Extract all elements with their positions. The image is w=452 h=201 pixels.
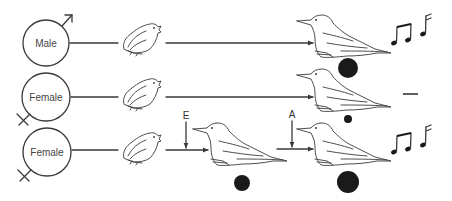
male-circle: Male	[23, 20, 69, 66]
androgen-label: A	[289, 109, 296, 120]
adult-bird-icon	[297, 15, 391, 57]
juvenile-bird-icon	[123, 79, 161, 111]
row-female-untreated: Female	[17, 69, 418, 125]
music-notes-icon	[390, 14, 431, 46]
estrogen-treatment: E	[183, 110, 190, 148]
intermediate-bird-icon	[193, 123, 287, 165]
female-circle: Female	[22, 73, 70, 121]
female-label: Female	[29, 92, 63, 103]
song-nucleus-large-dot	[337, 171, 359, 193]
male-label: Male	[35, 38, 57, 49]
juvenile-bird-icon	[123, 133, 161, 165]
song-nucleus-large-dot	[338, 58, 358, 78]
adult-bird-icon	[297, 123, 391, 165]
female-label: Female	[30, 147, 64, 158]
song-learning-diagram: Male Female	[0, 0, 452, 201]
row-female-treated: Female E A	[18, 109, 431, 193]
song-nucleus-small-dot	[344, 115, 352, 123]
female-symbol-icon	[17, 114, 30, 125]
estrogen-label: E	[183, 110, 190, 121]
row-male: Male	[23, 14, 431, 78]
music-notes-icon	[390, 125, 431, 155]
female-symbol-icon	[18, 170, 31, 181]
androgen-treatment: A	[289, 109, 296, 147]
song-nucleus-medium-dot	[234, 175, 250, 191]
juvenile-bird-icon	[123, 24, 161, 56]
female-circle: Female	[23, 128, 71, 176]
male-symbol-icon	[62, 15, 72, 26]
